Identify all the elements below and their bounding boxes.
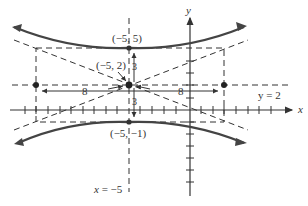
center-label: (−5, 2) — [96, 59, 126, 72]
arrow-lower-right-icon — [235, 138, 247, 146]
center-pointer-arrow — [118, 72, 126, 81]
dist-up-label: 3 — [132, 61, 137, 72]
line-x-label: x = −5 — [93, 183, 123, 195]
y-axis-label: y — [185, 4, 191, 16]
y-axis: y — [185, 4, 194, 196]
dist-down-label: 3 — [132, 96, 137, 107]
line-y-label: y = 2 — [258, 89, 281, 101]
right-focus-point — [221, 82, 227, 88]
dist-left-label: 8 — [82, 85, 88, 97]
x-axis: x — [10, 103, 303, 115]
bottom-vertex-label: (−5, −1) — [110, 127, 147, 140]
center-point — [126, 82, 133, 89]
hyperbola-diagram: x y y = 2 x = −5 8 8 3 3 — [0, 0, 308, 206]
x-axis-label: x — [297, 103, 303, 115]
arrow-lower-left-icon — [14, 138, 24, 146]
left-focus-point — [33, 82, 39, 88]
top-vertex-point — [126, 45, 131, 50]
bottom-vertex-point — [126, 119, 131, 124]
top-vertex-label: (−5, 5) — [112, 32, 142, 45]
dist-right-label: 8 — [178, 85, 184, 97]
